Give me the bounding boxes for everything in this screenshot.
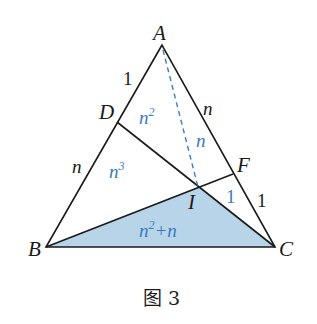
figure-caption: 图 3 bbox=[143, 287, 180, 309]
side-label-af: n bbox=[203, 98, 213, 119]
dashed-segment-ai bbox=[163, 50, 198, 187]
side-label-db: n bbox=[72, 156, 82, 177]
side-label-fc: 1 bbox=[257, 190, 267, 211]
area-label-ifc: 1 bbox=[226, 186, 236, 207]
area-label-dbi: n3 bbox=[109, 159, 125, 182]
area-label-aif: n bbox=[196, 130, 206, 151]
vertex-label-b: B bbox=[28, 237, 41, 261]
area-label-adi: n2 bbox=[139, 105, 155, 128]
vertex-label-f: F bbox=[236, 153, 250, 177]
area-label-bic: n2+n bbox=[139, 218, 177, 241]
vertex-label-c: C bbox=[279, 237, 294, 261]
vertex-label-a: A bbox=[151, 21, 166, 45]
vertex-label-i: I bbox=[187, 190, 196, 214]
vertex-label-d: D bbox=[98, 100, 114, 124]
triangle-diagram: A B C D F I 1 n n 1 n2 n n3 1 n2+n 图 3 bbox=[0, 0, 317, 324]
side-label-ad: 1 bbox=[123, 68, 133, 89]
